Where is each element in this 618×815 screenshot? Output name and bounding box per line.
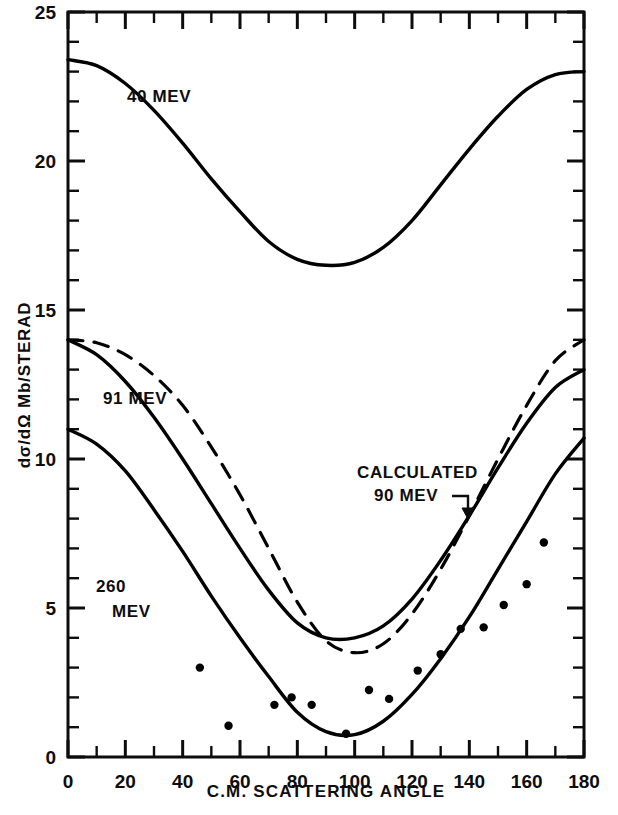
curve-label-91mev: 91 MEV (103, 389, 167, 408)
annotation-line-2: 90 MEV (374, 486, 438, 505)
x-tick-label: 0 (63, 771, 74, 792)
x-tick-label: 180 (568, 771, 600, 792)
x-tick-label: 140 (453, 771, 485, 792)
scatter-point (342, 730, 350, 738)
y-tick-label: 20 (35, 151, 56, 172)
scatter-point (307, 701, 315, 709)
y-tick-label: 5 (45, 598, 56, 619)
scatter-point (270, 701, 278, 709)
y-tick-label: 0 (45, 747, 56, 768)
annotation-line-1: CALCULATED (357, 463, 478, 482)
x-tick-label: 160 (511, 771, 543, 792)
y-tick-label: 15 (35, 300, 57, 321)
scatter-point (287, 693, 295, 701)
scatter-point (540, 538, 548, 546)
scatter-point (385, 695, 393, 703)
scatter-point (500, 601, 508, 609)
curve-label-260mev-unit: MEV (112, 602, 151, 621)
x-axis-title: C.M. SCATTERING ANGLE (207, 782, 446, 801)
x-tick-label: 20 (115, 771, 136, 792)
y-tick-label: 10 (35, 449, 56, 470)
scatter-point (196, 663, 204, 671)
y-tick-label: 25 (35, 2, 57, 23)
curve-label-260mev: 260 (96, 577, 126, 596)
scatter-point (436, 650, 444, 658)
scatter-point (479, 623, 487, 631)
curve-label-40mev: 40 MEV (127, 87, 191, 106)
scatter-point (457, 625, 465, 633)
y-axis-title: dσ/dΩ Mb/STERAD (15, 302, 34, 469)
scatter-point (365, 686, 373, 694)
scatter-point (522, 580, 530, 588)
scattering-cross-section-figure: 0510152025020406080100120140160180 CALCU… (0, 0, 618, 815)
chart-svg: 0510152025020406080100120140160180 CALCU… (0, 0, 618, 815)
scatter-point (414, 666, 422, 674)
x-tick-label: 40 (172, 771, 193, 792)
scatter-point (224, 722, 232, 730)
